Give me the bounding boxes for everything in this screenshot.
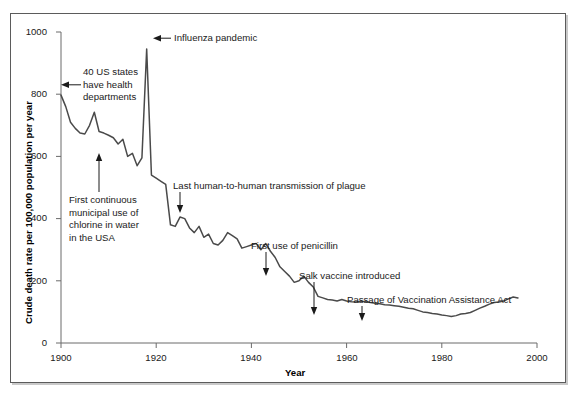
- annotation-first-penicillin: First use of penicillin: [251, 240, 338, 253]
- y-axis-title: Crude death rate per 100,000 population …: [23, 101, 34, 324]
- annotation-line-2: municipal use of: [69, 207, 139, 220]
- x-axis-title: Year: [285, 367, 305, 378]
- y-tick-label-0: 0: [13, 337, 47, 348]
- x-tick-label-2000: 2000: [517, 352, 557, 363]
- x-tick-label-1960: 1960: [327, 352, 367, 363]
- y-tick-label-800: 800: [13, 88, 47, 99]
- x-tick-label-1980: 1980: [422, 352, 462, 363]
- y-axis-ticks: [56, 32, 61, 343]
- annotation-salk-vaccine: Salk vaccine introduced: [299, 270, 400, 283]
- annotation-line-1: 40 US states: [83, 66, 138, 79]
- chart-figure: 1000 800 600 400 200 0 1900 1920 1940 19…: [0, 0, 578, 395]
- arrow-states-health-depts: [61, 82, 81, 88]
- annotation-vaccination-assistance-act: Passage of Vaccination Assistance Act: [347, 294, 511, 307]
- annotation-line-2: have health: [83, 79, 138, 92]
- arrow-plague-transmission: [177, 192, 183, 213]
- arrow-chlorine-water: [96, 153, 102, 192]
- x-tick-label-1920: 1920: [136, 352, 176, 363]
- annotation-line-4: in the USA: [69, 232, 139, 245]
- annotation-influenza-pandemic: Influenza pandemic: [174, 32, 257, 45]
- y-tick-label-1000: 1000: [13, 26, 47, 37]
- annotation-line-3: chlorine in water: [69, 219, 139, 232]
- arrow-salk-vaccine: [311, 282, 317, 315]
- annotation-line-1: First continuous: [69, 194, 139, 207]
- annotation-plague-transmission: Last human-to-human transmission of plag…: [173, 180, 366, 193]
- annotation-states-health-depts: 40 US states have health departments: [83, 66, 138, 104]
- chart-frame: 1000 800 600 400 200 0 1900 1920 1940 19…: [10, 13, 566, 383]
- x-tick-label-1900: 1900: [41, 352, 81, 363]
- arrow-first-penicillin: [263, 252, 269, 276]
- arrow-vaccination-assistance-act: [359, 306, 365, 321]
- arrow-influenza-pandemic: [153, 35, 171, 41]
- annotation-line-3: departments: [83, 91, 138, 104]
- annotation-chlorine-water: First continuous municipal use of chlori…: [69, 194, 139, 244]
- x-tick-label-1940: 1940: [231, 352, 271, 363]
- x-axis-ticks: [61, 343, 537, 348]
